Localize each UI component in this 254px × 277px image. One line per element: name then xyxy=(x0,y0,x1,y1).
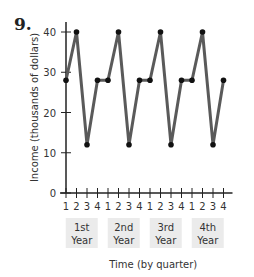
y-tick-label: 20 xyxy=(43,108,56,119)
x-tick-label: 2 xyxy=(157,201,163,212)
year-group-word: Year xyxy=(70,235,93,246)
x-tick-label: 4 xyxy=(94,201,100,212)
x-tick-label: 4 xyxy=(136,201,142,212)
year-group-word: Year xyxy=(112,235,135,246)
data-point xyxy=(168,142,174,148)
y-tick-label: 0 xyxy=(50,188,56,199)
data-point xyxy=(74,29,80,35)
y-tick-label: 30 xyxy=(43,67,56,78)
data-point xyxy=(137,78,143,84)
year-group-word: Year xyxy=(196,235,219,246)
data-point xyxy=(158,29,164,35)
x-tick-label: 4 xyxy=(220,201,226,212)
data-point xyxy=(84,142,90,148)
income-line-chart: 01020304012341234123412341stYear2ndYear3… xyxy=(0,0,254,277)
x-tick-label: 3 xyxy=(210,201,216,212)
data-point xyxy=(221,78,227,84)
data-point xyxy=(210,142,216,148)
x-axis-title: Time (by quarter) xyxy=(108,259,197,270)
income-line xyxy=(66,32,224,145)
year-group-ordinal: 4th xyxy=(199,222,216,233)
data-point xyxy=(147,78,153,84)
year-group-ordinal: 1st xyxy=(74,222,90,233)
x-tick-label: 1 xyxy=(105,201,111,212)
x-tick-label: 1 xyxy=(189,201,195,212)
x-tick-label: 2 xyxy=(73,201,79,212)
data-point xyxy=(116,29,122,35)
data-point xyxy=(200,29,206,35)
data-point xyxy=(179,78,185,84)
year-group-word: Year xyxy=(154,235,177,246)
x-tick-label: 3 xyxy=(168,201,174,212)
data-point xyxy=(126,142,132,148)
x-tick-label: 3 xyxy=(126,201,132,212)
x-tick-label: 2 xyxy=(115,201,121,212)
x-tick-label: 3 xyxy=(84,201,90,212)
data-point xyxy=(63,78,69,84)
x-tick-label: 1 xyxy=(147,201,153,212)
x-tick-label: 2 xyxy=(199,201,205,212)
data-point xyxy=(105,78,111,84)
x-tick-label: 1 xyxy=(63,201,69,212)
year-group-ordinal: 2nd xyxy=(114,222,133,233)
data-point xyxy=(95,78,101,84)
y-tick-label: 40 xyxy=(43,27,56,38)
y-tick-label: 10 xyxy=(43,148,56,159)
x-tick-label: 4 xyxy=(178,201,184,212)
data-point xyxy=(189,78,195,84)
year-group-ordinal: 3rd xyxy=(157,222,174,233)
y-axis-title: Income (thousands of dollars) xyxy=(29,33,40,182)
